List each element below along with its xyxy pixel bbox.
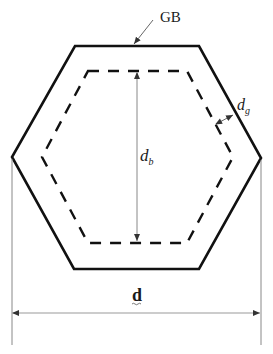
grain-hexagon-diagram: GB db dg d <box>0 0 273 354</box>
dg-label: dg <box>237 96 250 116</box>
d-label: d <box>132 285 142 305</box>
gb-label: GB <box>160 9 181 25</box>
dg-dimension-line <box>216 115 233 124</box>
gb-leader-arrow <box>134 20 153 44</box>
db-label: db <box>140 146 154 167</box>
